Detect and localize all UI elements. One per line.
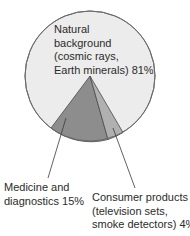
label-line: (television sets, bbox=[92, 205, 190, 219]
label-line: Natural bbox=[54, 23, 154, 37]
label-natural-background: Natural background (cosmic rays, Earth m… bbox=[54, 23, 154, 77]
label-line: Medicine and bbox=[4, 181, 84, 195]
label-line: smoke detectors) 4% bbox=[92, 218, 190, 232]
label-line: background bbox=[54, 37, 154, 51]
label-medicine-diagnostics: Medicine and diagnostics 15% bbox=[4, 181, 84, 208]
label-consumer-products: Consumer products (television sets, smok… bbox=[92, 191, 190, 232]
label-line: Earth minerals) 81% bbox=[54, 64, 154, 78]
label-line: (cosmic rays, bbox=[54, 50, 154, 64]
leader-line-consumer bbox=[113, 128, 135, 188]
label-line: Consumer products bbox=[92, 191, 190, 205]
label-line: diagnostics 15% bbox=[4, 195, 84, 209]
